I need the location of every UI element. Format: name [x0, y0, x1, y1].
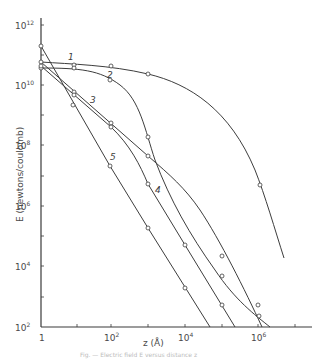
curve-label-5: 5 — [110, 152, 116, 162]
x-tick-label: 102 — [104, 331, 119, 343]
curve-label-2: 2 — [107, 70, 113, 80]
curve-3 — [41, 62, 262, 327]
data-markers — [39, 44, 262, 318]
curve-label-4: 4 — [155, 185, 161, 195]
x-tick-label: 106 — [251, 331, 266, 343]
x-tick-label: 1 — [39, 333, 45, 343]
x-axis-label: z (Å) — [143, 337, 164, 348]
y-tick-label: 104 — [15, 260, 30, 272]
y-axis-label: E (newtons/coulomb) — [15, 127, 25, 222]
curve-label-1: 1 — [68, 52, 74, 62]
curve-4 — [41, 66, 235, 327]
y-tick-label: 102 — [15, 321, 30, 333]
y-tick-label: 1012 — [15, 19, 34, 31]
log-log-field-chart: 102 104 106 108 1010 1012 1 102 104 106 … — [0, 0, 332, 361]
figure-caption: Fig. — Electric field E versus distance … — [80, 351, 197, 359]
x-tick-label: 104 — [178, 331, 193, 343]
curve-1 — [41, 62, 284, 258]
curve-label-3: 3 — [90, 95, 96, 105]
curve-2 — [41, 68, 270, 327]
y-tick-label: 1010 — [15, 79, 34, 91]
